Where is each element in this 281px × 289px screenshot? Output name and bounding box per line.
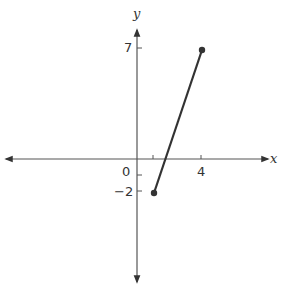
y-axis-label: y <box>132 6 141 21</box>
x-axis-label: x <box>270 151 278 166</box>
y-tick-label-neg2: −2 <box>114 184 133 199</box>
line-segment <box>154 50 202 193</box>
x-tick-label-4: 4 <box>197 164 205 179</box>
endpoint-upper <box>199 47 205 53</box>
origin-label: 0 <box>122 164 130 179</box>
y-tick-label-7: 7 <box>124 40 132 55</box>
endpoint-lower <box>151 190 157 196</box>
coordinate-plane: y x 7 0 −2 4 <box>0 0 281 289</box>
